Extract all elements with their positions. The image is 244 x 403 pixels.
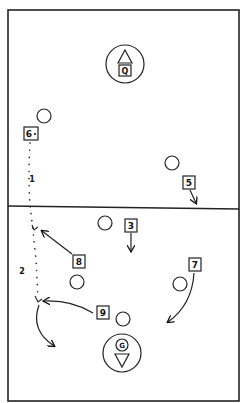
pass-1-label: 1 bbox=[29, 175, 35, 184]
player-9-label: 9 bbox=[100, 308, 106, 318]
player-5: 5 bbox=[183, 176, 195, 189]
player-7-label: 7 bbox=[192, 260, 198, 270]
goalie-bottom-label: G bbox=[119, 342, 125, 350]
goalie-top-label: Q bbox=[122, 67, 129, 76]
player-5-label: 5 bbox=[186, 178, 192, 188]
player-8: 8 bbox=[73, 255, 85, 268]
player-7: 7 bbox=[189, 258, 201, 271]
player-6-label: 6 bbox=[26, 129, 32, 139]
player-9: 9 bbox=[97, 306, 109, 319]
puck-dot-icon bbox=[34, 133, 36, 135]
player-3: 3 bbox=[125, 219, 137, 232]
play-diagram: Q G 6 5 3 8 bbox=[0, 0, 244, 403]
diagram-canvas: Q G 6 5 3 8 bbox=[0, 0, 244, 403]
player-8-label: 8 bbox=[76, 257, 82, 267]
player-3-label: 3 bbox=[128, 221, 134, 231]
pass-2-label: 2 bbox=[19, 267, 25, 276]
player-6: 6 bbox=[24, 127, 38, 140]
